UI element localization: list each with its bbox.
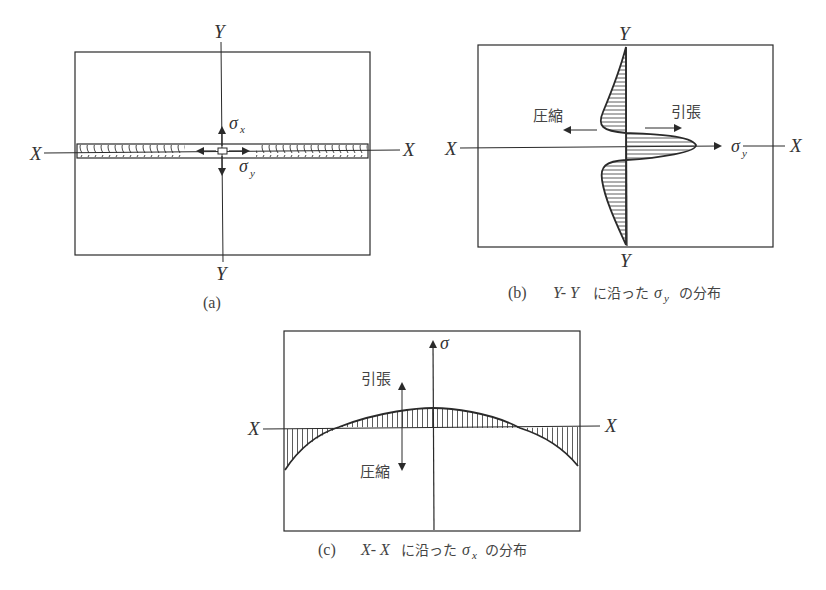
- tension-label: 引張: [361, 370, 391, 388]
- y-axis-label-top: Y: [619, 23, 632, 44]
- sigma-y-label: σ: [239, 156, 249, 176]
- caption-sigma-sub: y: [663, 292, 669, 304]
- x-axis-label-left: X: [247, 418, 261, 439]
- x-axis-label-right: X: [789, 135, 803, 156]
- sigma-axis-line: [433, 342, 434, 530]
- panel-c-caption: (c) X- X に沿った σ x の分布: [318, 541, 527, 561]
- y-axis-label-bottom: Y: [620, 250, 633, 271]
- caption-axis: X- X: [360, 541, 391, 558]
- caption-axis: Y- Y: [553, 284, 581, 301]
- x-axis-label-right: X: [604, 415, 618, 436]
- caption-prefix: (c): [318, 541, 336, 559]
- sigma-x-label: σ: [229, 113, 239, 133]
- panel-a-caption: (a): [203, 294, 221, 312]
- caption-sigma-sub: x: [471, 549, 477, 561]
- weld-residual-stress-diagram: X X Y Y σ x σ y (a) X X Y Y 圧縮 引張 σ y (b…: [0, 0, 826, 590]
- caption-prefix: (b): [508, 284, 527, 302]
- panel-c: X X σ 引張 圧縮 (c) X- X に沿った σ x の分布: [247, 331, 618, 561]
- x-axis-label-left: X: [29, 143, 43, 164]
- x-axis-label-left: X: [444, 138, 458, 159]
- tension-label: 引張: [671, 103, 701, 121]
- compression-label: 圧縮: [533, 107, 563, 125]
- sigma-y-subscript: y: [249, 167, 255, 179]
- caption-mid: に沿った: [593, 285, 649, 301]
- sigma-x-compression-left: [285, 428, 339, 470]
- panel-b: X X Y Y 圧縮 引張 σ y (b) Y- Y に沿った σ y の分布: [444, 23, 803, 304]
- panel-a: X X Y Y σ x σ y (a): [29, 21, 416, 312]
- x-axis-label-right: X: [402, 139, 416, 160]
- caption-suffix: の分布: [485, 542, 527, 558]
- sigma-axis-label: σ: [440, 333, 450, 353]
- sigma-y-label: σ: [731, 136, 741, 156]
- caption-sigma: σ: [654, 284, 663, 301]
- caption-suffix: の分布: [679, 285, 721, 301]
- y-axis-label-bottom: Y: [216, 263, 229, 284]
- compression-label: 圧縮: [360, 463, 390, 481]
- caption-mid: に沿った: [401, 542, 457, 558]
- sigma-x-subscript: x: [239, 123, 245, 135]
- weld-ripples-left: [78, 145, 185, 157]
- caption-sigma: σ: [462, 541, 471, 558]
- sigma-y-subscript: y: [741, 147, 747, 159]
- y-axis-label-top: Y: [214, 21, 227, 42]
- stress-element: [218, 148, 227, 154]
- sigma-x-compression-right: [520, 427, 578, 466]
- panel-b-caption: (b) Y- Y に沿った σ y の分布: [508, 284, 721, 304]
